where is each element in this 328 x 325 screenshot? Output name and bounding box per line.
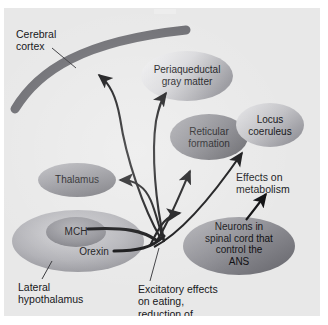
effects-on-metabolism-label: Effects on metabolism <box>236 171 290 196</box>
leader-lateral-hypothalamus <box>42 261 52 279</box>
figure-root: Cerebral cortex Periaqueductal gray matt… <box>0 0 328 325</box>
mch-label: MCH <box>56 226 96 238</box>
edge-mch-trunk <box>88 228 156 240</box>
edge-to-cerebral-cortex <box>99 75 161 239</box>
orexin-label: Orexin <box>70 246 118 258</box>
locus-coeruleus-label: Locus coeruleus <box>235 114 305 137</box>
edge-to-metabolism <box>246 194 266 220</box>
thalamus-label: Thalamus <box>47 174 107 186</box>
connectors-layer <box>4 8 320 316</box>
leader-excitatory <box>150 248 159 281</box>
periaqueductal-label: Periaqueductal gray matter <box>139 64 235 87</box>
edge-to-reticular-formation <box>156 171 190 242</box>
lateral-hypothalamus-label: Lateral hypothalamus <box>18 281 83 306</box>
diagram-panel: Cerebral cortex Periaqueductal gray matt… <box>4 8 320 316</box>
cerebral-cortex-label: Cerebral cortex <box>16 28 56 53</box>
edge-orexin-trunk <box>114 236 164 251</box>
spinal-cord-neurons-label: Neurons in spinal cord that control the … <box>186 221 292 267</box>
excitatory-effects-label: Excitatory effects on eating, reduction … <box>138 283 218 316</box>
